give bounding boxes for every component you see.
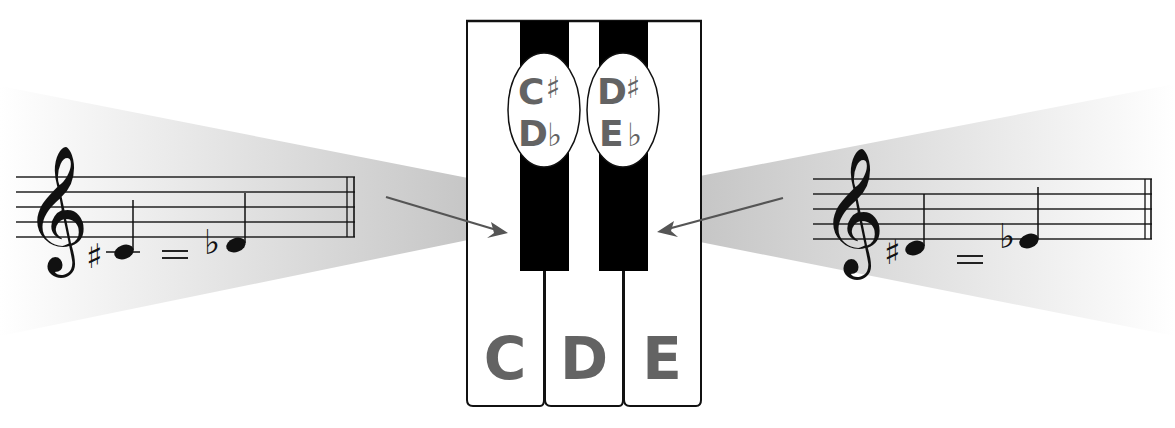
svg-text:E: E xyxy=(599,113,624,154)
sharp-icon: ♯ xyxy=(884,232,900,272)
svg-text:♭: ♭ xyxy=(627,116,642,154)
white-key-label-c: C xyxy=(484,325,527,393)
svg-text:♯: ♯ xyxy=(546,70,561,105)
enharmonic-diagram: 𝄞 ♯ ♭ 𝄞 ♯ xyxy=(0,0,1175,428)
flat-icon: ♭ xyxy=(999,216,1015,256)
piano-keyboard: C ♯ D ♭ D ♯ E ♭ C D E xyxy=(466,20,702,408)
treble-clef-icon: 𝄞 xyxy=(24,144,89,278)
label-oval-d-sharp-e-flat: D ♯ E ♭ xyxy=(587,53,659,167)
treble-clef-icon: 𝄞 xyxy=(820,146,885,280)
white-key-label-d: D xyxy=(560,325,608,393)
right-light-beam xyxy=(700,84,1175,336)
flat-icon: ♭ xyxy=(204,222,220,262)
svg-text:D: D xyxy=(597,71,627,112)
svg-text:♭: ♭ xyxy=(547,116,562,154)
sharp-icon: ♯ xyxy=(86,236,102,276)
svg-text:D: D xyxy=(518,113,548,154)
label-oval-c-sharp-d-flat: C ♯ D ♭ xyxy=(508,53,580,167)
white-key-label-e: E xyxy=(642,325,682,393)
svg-text:♯: ♯ xyxy=(626,70,641,105)
svg-text:C: C xyxy=(518,71,544,112)
